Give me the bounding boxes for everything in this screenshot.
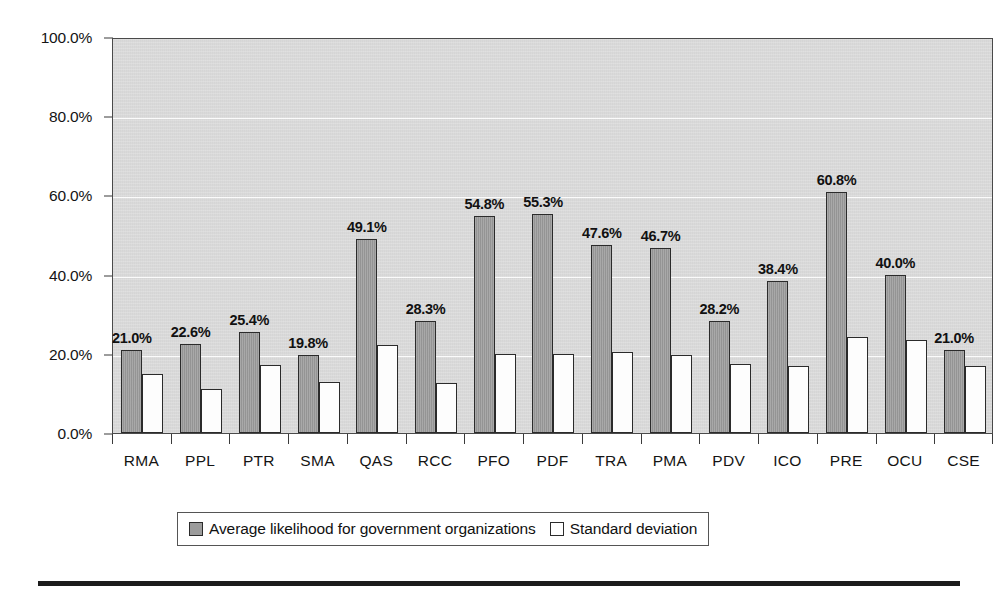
x-tick-mark bbox=[992, 434, 993, 444]
x-tick-mark bbox=[582, 434, 583, 444]
bar-value-label: 54.8% bbox=[464, 196, 504, 212]
bar[interactable]: 46.7% bbox=[650, 248, 671, 433]
bar[interactable]: 49.1% bbox=[356, 239, 377, 433]
bar-group: 22.6% bbox=[172, 39, 231, 433]
x-tick-label: CSE bbox=[947, 452, 980, 470]
bar[interactable] bbox=[906, 340, 927, 433]
x-tick-mark bbox=[288, 434, 289, 444]
legend-swatch-sd bbox=[550, 522, 564, 536]
bar[interactable] bbox=[612, 352, 633, 433]
x-tick-label: SMA bbox=[300, 452, 335, 470]
bar[interactable]: 19.8% bbox=[298, 355, 319, 433]
bar-value-label: 55.3% bbox=[523, 194, 563, 210]
y-axis: 0.0%20.0%40.0%60.0%80.0%100.0% bbox=[0, 38, 104, 434]
bar-group: 19.8% bbox=[289, 39, 348, 433]
bar[interactable]: 25.4% bbox=[239, 332, 260, 433]
bar[interactable] bbox=[671, 355, 692, 433]
bar-value-label: 49.1% bbox=[347, 219, 387, 235]
x-tick-label: RCC bbox=[418, 452, 452, 470]
bar[interactable] bbox=[436, 383, 457, 433]
y-tick-label: 80.0% bbox=[49, 108, 92, 126]
x-tick-mark bbox=[229, 434, 230, 444]
legend-label: Standard deviation bbox=[570, 520, 697, 538]
bar[interactable]: 47.6% bbox=[591, 245, 612, 433]
bar-group: 49.1% bbox=[348, 39, 407, 433]
bar-group: 54.8% bbox=[465, 39, 524, 433]
x-tick-label: PPL bbox=[185, 452, 215, 470]
x-tick-mark bbox=[641, 434, 642, 444]
x-tick-label: PMA bbox=[653, 452, 688, 470]
x-tick-label: OCU bbox=[887, 452, 922, 470]
bar[interactable] bbox=[260, 365, 281, 434]
x-tick-mark bbox=[817, 434, 818, 444]
bar[interactable]: 21.0% bbox=[944, 350, 965, 433]
bar[interactable] bbox=[553, 354, 574, 433]
bar-value-label: 47.6% bbox=[582, 225, 622, 241]
bar-value-label: 28.3% bbox=[406, 301, 446, 317]
chart-legend: Average likelihood for government organi… bbox=[177, 512, 709, 546]
bar-group: 40.0% bbox=[877, 39, 936, 433]
bar[interactable] bbox=[965, 366, 986, 433]
bar-group: 21.0% bbox=[113, 39, 172, 433]
bar[interactable]: 28.3% bbox=[415, 321, 436, 433]
y-tick-label: 60.0% bbox=[49, 187, 92, 205]
bar[interactable] bbox=[201, 389, 222, 433]
bar[interactable]: 40.0% bbox=[885, 275, 906, 433]
x-tick-label: PDV bbox=[712, 452, 745, 470]
x-tick-mark bbox=[347, 434, 348, 444]
x-tick-label: RMA bbox=[124, 452, 159, 470]
bar[interactable] bbox=[788, 366, 809, 433]
bar-value-label: 19.8% bbox=[288, 335, 328, 351]
bar-group: 60.8% bbox=[818, 39, 877, 433]
bar-group: 47.6% bbox=[583, 39, 642, 433]
bar-value-label: 46.7% bbox=[641, 228, 681, 244]
bar-group: 28.2% bbox=[700, 39, 759, 433]
x-tick-label: ICO bbox=[773, 452, 801, 470]
x-tick-label: QAS bbox=[359, 452, 393, 470]
bar-value-label: 40.0% bbox=[876, 255, 916, 271]
x-tick-mark bbox=[934, 434, 935, 444]
bar-group: 55.3% bbox=[524, 39, 583, 433]
x-tick-mark bbox=[171, 434, 172, 444]
x-axis: RMAPPLPTRSMAQASRCCPFOPDFTRAPMAPDVICOPREO… bbox=[112, 434, 993, 480]
x-tick-mark bbox=[112, 434, 113, 444]
bar[interactable] bbox=[319, 382, 340, 433]
bar[interactable]: 54.8% bbox=[474, 216, 495, 433]
legend-swatch-avg bbox=[189, 522, 203, 536]
bar[interactable] bbox=[142, 374, 163, 433]
bar[interactable] bbox=[847, 337, 868, 433]
bar-value-label: 38.4% bbox=[758, 261, 798, 277]
legend-label: Average likelihood for government organi… bbox=[209, 520, 536, 538]
bar-value-label: 60.8% bbox=[817, 172, 857, 188]
x-tick-mark bbox=[464, 434, 465, 444]
bar-value-label: 21.0% bbox=[112, 330, 152, 346]
y-tick-label: 0.0% bbox=[57, 425, 92, 443]
bar[interactable]: 60.8% bbox=[826, 192, 847, 433]
x-tick-label: PRE bbox=[830, 452, 863, 470]
bar-group: 28.3% bbox=[407, 39, 466, 433]
bar-group: 21.0% bbox=[935, 39, 994, 433]
legend-entry[interactable]: Standard deviation bbox=[550, 520, 697, 538]
bar-group: 38.4% bbox=[759, 39, 818, 433]
bar-group: 46.7% bbox=[642, 39, 701, 433]
bar[interactable]: 38.4% bbox=[767, 281, 788, 433]
bar[interactable]: 21.0% bbox=[121, 350, 142, 433]
bottom-rule bbox=[38, 581, 960, 586]
bar-chart-figure: 0.0%20.0%40.0%60.0%80.0%100.0% 21.0%22.6… bbox=[0, 0, 1001, 598]
x-tick-label: TRA bbox=[595, 452, 627, 470]
x-tick-label: PFO bbox=[477, 452, 510, 470]
bar-value-label: 25.4% bbox=[230, 312, 270, 328]
bar-group: 25.4% bbox=[230, 39, 289, 433]
legend-entry[interactable]: Average likelihood for government organi… bbox=[189, 520, 536, 538]
bar[interactable] bbox=[377, 345, 398, 433]
x-tick-label: PTR bbox=[243, 452, 275, 470]
bar-value-label: 22.6% bbox=[171, 324, 211, 340]
bar-value-label: 21.0% bbox=[934, 330, 974, 346]
bar[interactable]: 22.6% bbox=[180, 344, 201, 433]
x-tick-label: PDF bbox=[537, 452, 569, 470]
bar[interactable]: 55.3% bbox=[532, 214, 553, 433]
bar[interactable]: 28.2% bbox=[709, 321, 730, 433]
bar[interactable] bbox=[495, 354, 516, 433]
x-tick-mark bbox=[406, 434, 407, 444]
bar[interactable] bbox=[730, 364, 751, 433]
